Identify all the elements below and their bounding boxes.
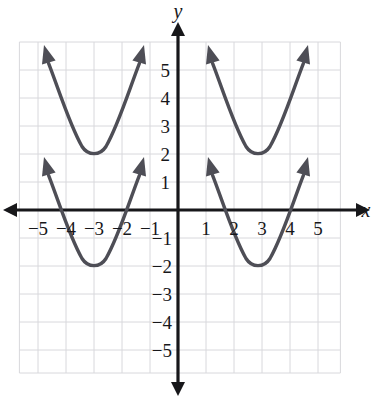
y-tick-label: −4 <box>152 312 173 333</box>
upper-right-parabola <box>206 45 310 154</box>
y-tick-label: −3 <box>152 284 172 305</box>
x-axis-label: x <box>361 199 371 221</box>
x-tick-labels: −5 −4 −3 −2 −1 1 2 3 4 5 <box>28 218 323 239</box>
curve-arrow-upper-right-a <box>206 45 220 65</box>
x-tick-label: 3 <box>257 218 267 239</box>
curve-arrow-upper-right-b <box>296 45 310 65</box>
x-tick-label: 4 <box>285 218 295 239</box>
x-tick-label: 2 <box>229 218 239 239</box>
y-tick-label: 4 <box>161 88 171 109</box>
x-tick-label: −4 <box>56 218 77 239</box>
x-tick-label: −2 <box>112 218 132 239</box>
y-tick-label: 2 <box>161 144 171 165</box>
curve-arrow-lower-right-a <box>206 157 220 177</box>
y-tick-label: 1 <box>161 172 171 193</box>
curve-arrow-upper-left-b <box>132 45 146 65</box>
curve-arrow-lower-left-a <box>42 157 56 177</box>
x-tick-label: 1 <box>201 218 211 239</box>
y-tick-label: −2 <box>152 256 172 277</box>
coordinate-plane-svg: −5 −4 −3 −2 −1 1 2 3 4 5 5 4 3 2 1 −1 −2… <box>0 0 383 406</box>
y-axis-arrow-up <box>171 22 185 36</box>
y-tick-label: −1 <box>152 228 172 249</box>
parabola-graph-figure: −5 −4 −3 −2 −1 1 2 3 4 5 5 4 3 2 1 −1 −2… <box>0 0 383 406</box>
y-tick-label: −5 <box>152 340 172 361</box>
x-axis-arrow-left <box>3 203 17 217</box>
y-axis-label: y <box>172 0 183 23</box>
y-tick-label: 5 <box>161 60 171 81</box>
curve-arrow-lower-left-b <box>132 157 146 177</box>
curve-arrow-upper-left-a <box>42 45 56 65</box>
y-axis-arrow-down <box>171 382 185 396</box>
x-tick-label: −3 <box>84 218 104 239</box>
curve-arrow-lower-right-b <box>296 157 310 177</box>
x-tick-label: −5 <box>28 218 48 239</box>
y-tick-label: 3 <box>161 116 171 137</box>
x-tick-label: 5 <box>313 218 323 239</box>
